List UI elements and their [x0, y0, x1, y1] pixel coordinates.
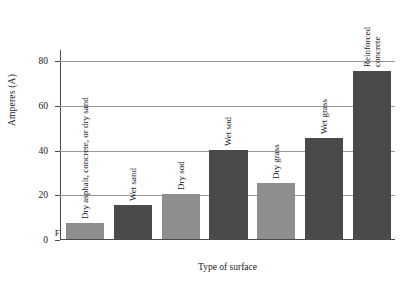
x-axis-title: Type of surface — [60, 262, 395, 272]
bar[interactable]: Wet grass — [305, 138, 343, 239]
y-tick-label-0: 0 — [43, 235, 48, 245]
bar-label: Reinforced concrete — [362, 27, 382, 67]
bar-label: Dry grass — [271, 144, 281, 179]
y-tick-60: 60 — [55, 106, 60, 107]
bar[interactable]: Reinforced concrete — [353, 71, 391, 239]
y-tick-80: 80 — [55, 61, 60, 62]
bar[interactable]: Dry asphalt, concrete, or dry sandF — [66, 223, 104, 239]
y-tick-label-80: 80 — [39, 56, 49, 66]
bar-label: Wet grass — [319, 99, 329, 134]
bar-label: Dry sod — [176, 162, 186, 191]
bar[interactable]: Wet sod — [209, 150, 247, 239]
bar-label: Dry asphalt, concrete, or dry sand — [80, 98, 90, 220]
bar[interactable]: Wet sand — [114, 205, 152, 239]
plot-area: 020406080 Dry asphalt, concrete, or dry … — [60, 50, 395, 240]
y-axis-title: Amperes (A) — [7, 45, 17, 155]
bar[interactable]: Dry grass — [257, 183, 295, 239]
y-tick-40: 40 — [55, 151, 60, 152]
bar-annotation-f: F — [55, 228, 60, 238]
y-tick-label-60: 60 — [39, 101, 49, 111]
bar-chart: Amperes (A) 020406080 Dry asphalt, concr… — [0, 0, 420, 300]
bar[interactable]: Dry sod — [162, 194, 200, 239]
x-axis-line — [60, 239, 395, 240]
y-tick-label-20: 20 — [39, 190, 49, 200]
bar-label: Wet sand — [128, 168, 138, 201]
y-tick-20: 20 — [55, 195, 60, 196]
bar-label: Wet sod — [223, 117, 233, 146]
y-tick-label-40: 40 — [39, 146, 49, 156]
bars-group: Dry asphalt, concrete, or dry sandFWet s… — [61, 50, 395, 239]
y-tick-0: 0 — [55, 240, 60, 241]
